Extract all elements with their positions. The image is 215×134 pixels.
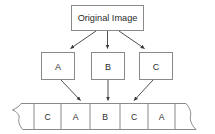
stream-cell-label-2: A: [73, 112, 79, 122]
diagram-canvas: Original Image A B C: [0, 0, 215, 134]
original-image-label: Original Image: [78, 13, 138, 23]
arrow-a-to-stream-cell: [61, 80, 81, 101]
stream-cell-label-5: A: [159, 112, 165, 122]
arrow-group-source-to-parts: [71, 31, 145, 49]
arrow-group-parts-to-stream: [61, 80, 153, 101]
stream-strip[interactable]: C A B C A: [13, 104, 197, 130]
arrow-original-to-c: [119, 31, 145, 49]
part-a-label: A: [55, 62, 61, 72]
stream-cell-label-1: C: [44, 112, 50, 122]
node-original-image[interactable]: Original Image: [72, 6, 144, 31]
arrow-c-to-stream-cell: [134, 80, 153, 101]
arrow-original-to-a: [71, 31, 97, 49]
part-c-label: C: [153, 62, 160, 72]
diagram-illustration: Original Image A B C: [0, 0, 215, 134]
node-part-c[interactable]: C: [140, 53, 173, 80]
part-b-label: B: [105, 62, 111, 72]
node-part-a[interactable]: A: [42, 53, 75, 80]
node-part-b[interactable]: B: [92, 53, 125, 80]
stream-cell-label-4: C: [131, 112, 137, 122]
stream-cell-label-3: B: [102, 112, 108, 122]
